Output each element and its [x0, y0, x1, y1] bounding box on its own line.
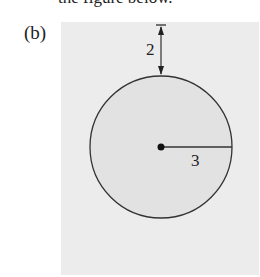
gap-label: 2	[146, 40, 155, 60]
radius-label: 3	[191, 151, 200, 171]
circle-diagram	[0, 0, 260, 277]
center-point	[158, 144, 165, 151]
gap-dimension-arrow	[156, 25, 166, 75]
